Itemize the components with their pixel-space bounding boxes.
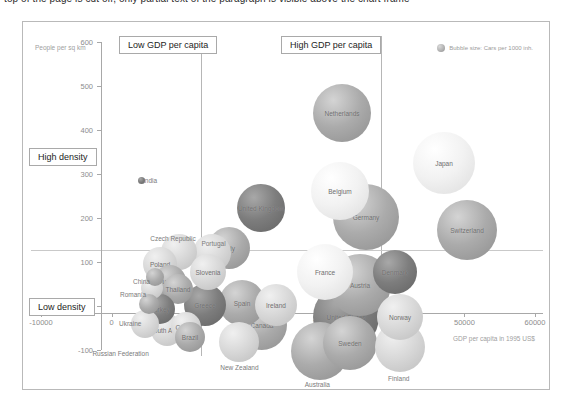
bubble-brazil[interactable]: Brazil bbox=[175, 322, 205, 352]
document-cut-line: top of the page is cut off, only partial… bbox=[4, 0, 410, 4]
chart-frame: 6005004003002001000-100-1000001000020000… bbox=[22, 21, 550, 390]
bubble-label: United Kingdom bbox=[238, 205, 284, 212]
x-axis-tick-label: 60000 bbox=[511, 318, 550, 327]
bubble-label: Czech Republic bbox=[150, 235, 196, 242]
bubble-france[interactable]: France bbox=[297, 244, 353, 300]
y-axis-tick-mark bbox=[97, 218, 101, 219]
bubble-norway[interactable]: Norway bbox=[377, 294, 423, 340]
x-axis-tick-label: -10000 bbox=[22, 318, 65, 327]
annotation-low-density: Low density bbox=[29, 298, 95, 316]
x-axis-tick-mark bbox=[464, 313, 465, 317]
bubble-label: Greece bbox=[194, 302, 215, 309]
bubble-label: China bbox=[133, 278, 150, 285]
bubble-label: New Zealand bbox=[220, 364, 258, 371]
bubble-label: Norway bbox=[389, 314, 411, 321]
bubble-label: Brazil bbox=[182, 334, 198, 341]
bubble-label: Romania bbox=[120, 291, 146, 298]
y-axis-tick-mark bbox=[97, 42, 101, 43]
y-axis-tick-label: 200 bbox=[63, 214, 93, 223]
annotation-low-gdp: Low GDP per capita bbox=[119, 36, 217, 54]
bubble-label: Australia bbox=[305, 381, 330, 388]
x-axis-tick-label: 50000 bbox=[440, 318, 488, 327]
bubble-label: Denmark bbox=[382, 269, 408, 276]
y-axis-title: People per sq km bbox=[35, 44, 86, 51]
document-top-cut-text: top of the page is cut off, only partial… bbox=[0, 0, 574, 14]
bubble-label: Japan bbox=[435, 160, 453, 167]
bubble-label: Netherlands bbox=[324, 110, 359, 117]
bubble-label: Spain bbox=[234, 300, 251, 307]
bubble-label: France bbox=[315, 269, 335, 276]
y-axis-tick-mark bbox=[97, 86, 101, 87]
y-axis-tick-mark bbox=[97, 174, 101, 175]
bubble-label: Ukraine bbox=[119, 320, 141, 327]
x-axis-tick-mark bbox=[535, 313, 536, 317]
bubble-label: Slovenia bbox=[196, 269, 221, 276]
bubble-label: Sweden bbox=[338, 340, 362, 347]
bubble-ireland[interactable]: Ireland bbox=[255, 284, 297, 326]
bubble-swatch-icon bbox=[437, 44, 445, 52]
legend-label: Bubble size: Cars per 1000 inh. bbox=[449, 45, 533, 51]
y-axis-tick-label: -100 bbox=[63, 346, 93, 355]
bubble-label: Austria bbox=[350, 282, 370, 289]
bubble-label: Portugal bbox=[201, 240, 225, 247]
y-axis-tick-label: 300 bbox=[63, 170, 93, 179]
bubble-label: Finland bbox=[388, 375, 409, 382]
bubble-label: Ireland bbox=[266, 302, 286, 309]
y-axis-tick-mark bbox=[97, 130, 101, 131]
y-axis-tick-mark bbox=[97, 262, 101, 263]
bubble-netherlands[interactable]: Netherlands bbox=[313, 84, 371, 142]
bubble-new-zealand[interactable] bbox=[219, 322, 259, 362]
plot-area: 6005004003002001000-100-1000001000020000… bbox=[23, 22, 549, 389]
x-axis-title: GDP per capita in 1995 US$ bbox=[453, 335, 535, 342]
bubble-slovenia[interactable]: Slovenia bbox=[190, 254, 226, 290]
bubble-switzerland[interactable]: Switzerland bbox=[437, 200, 497, 260]
x-axis-tick-mark bbox=[112, 313, 113, 317]
y-axis-tick-label: 100 bbox=[63, 258, 93, 267]
bubble-united-kingdom[interactable]: United Kingdom bbox=[237, 184, 285, 232]
bubble-sweden[interactable]: Sweden bbox=[323, 316, 377, 370]
annotation-high-density: High density bbox=[29, 148, 97, 166]
bubble-label: India bbox=[143, 177, 157, 184]
bubble-label: Thailand bbox=[166, 286, 191, 293]
y-axis-line bbox=[101, 42, 102, 350]
legend: Bubble size: Cars per 1000 inh. bbox=[437, 44, 533, 52]
annotation-high-gdp: High GDP per capita bbox=[281, 36, 381, 54]
bubble-label: Switzerland bbox=[450, 227, 484, 234]
y-axis-tick-mark bbox=[97, 306, 101, 307]
y-axis-tick-label: 400 bbox=[63, 126, 93, 135]
bubble-japan[interactable]: Japan bbox=[413, 132, 475, 194]
bubble-belgium[interactable]: Belgium bbox=[311, 162, 369, 220]
bubble-label: Russian Federation bbox=[92, 350, 148, 357]
bubble-label: Belgium bbox=[328, 188, 351, 195]
bubble-denmark[interactable]: Denmark bbox=[373, 250, 417, 294]
y-axis-tick-label: 500 bbox=[63, 82, 93, 91]
